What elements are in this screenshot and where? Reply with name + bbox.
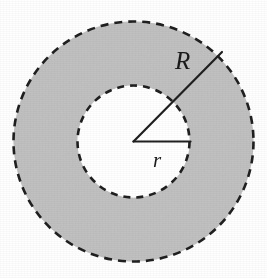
inner-radius-label: r xyxy=(153,150,161,171)
outer-radius-label: R xyxy=(175,48,190,73)
annulus-figure: R r xyxy=(0,0,267,278)
annulus-diagram-svg xyxy=(0,0,267,278)
